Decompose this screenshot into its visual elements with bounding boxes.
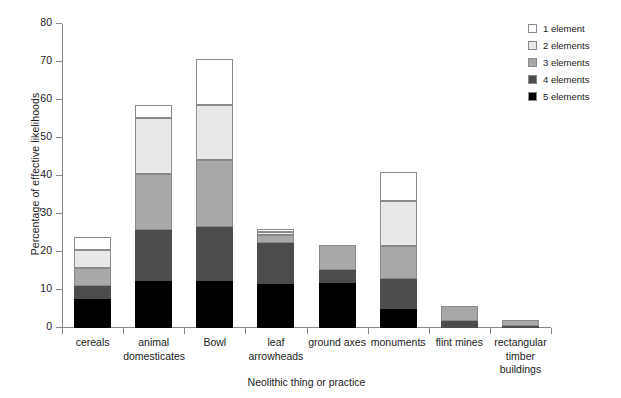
bar-segment (380, 309, 417, 328)
bar-segment (380, 201, 417, 247)
x-category-line: domesticates (123, 350, 184, 364)
y-tick-label: 0 (46, 320, 52, 332)
x-category-label: ground axes (307, 336, 368, 350)
y-axis-line (62, 24, 63, 328)
legend-swatch-icon (528, 24, 537, 33)
bar-rectangular-timber-buildings (502, 320, 539, 328)
x-category-line: Bowl (184, 336, 245, 350)
y-tick-label: 70 (40, 54, 52, 66)
bar-segment (196, 105, 233, 160)
x-category-line: arrowheads (245, 350, 306, 364)
bar-segment (441, 306, 478, 321)
bar-segment (380, 246, 417, 279)
bar-segment (74, 299, 111, 328)
bar-leaf-arrowheads (257, 229, 294, 328)
legend-swatch-icon (528, 58, 537, 67)
legend-label: 1 element (543, 23, 585, 34)
bar-segment (74, 286, 111, 299)
x-category-label: flint mines (429, 336, 490, 350)
legend: 1 element2 elements3 elements4 elements5… (528, 20, 589, 105)
x-category-line: flint mines (429, 336, 490, 350)
legend-swatch-icon (528, 41, 537, 50)
y-tick-label: 80 (40, 16, 52, 28)
bar-segment (380, 172, 417, 201)
bar-segment (319, 245, 356, 270)
bar-segment (257, 229, 294, 232)
legend-item: 1 element (528, 20, 589, 37)
x-tick (62, 328, 63, 334)
x-category-line: buildings (490, 363, 551, 377)
x-tick (307, 328, 308, 334)
bar-segment (135, 118, 172, 174)
x-tick (429, 328, 430, 334)
x-category-line: cereals (62, 336, 123, 350)
x-category-line: ground axes (307, 336, 368, 350)
x-tick (184, 328, 185, 334)
bar-segment (135, 230, 172, 281)
bar-segment (196, 59, 233, 105)
x-tick (123, 328, 124, 334)
legend-swatch-icon (528, 92, 537, 101)
bar-segment (135, 174, 172, 230)
bar-segment (196, 160, 233, 227)
x-category-label: leafarrowheads (245, 336, 306, 363)
x-category-label: cereals (62, 336, 123, 350)
y-tick-label: 30 (40, 206, 52, 218)
bar-segment (380, 279, 417, 309)
bar-segment (441, 321, 478, 328)
y-tick-label: 40 (40, 168, 52, 180)
bar-animal-domesticates (135, 105, 172, 328)
legend-label: 5 elements (543, 91, 589, 102)
plot-area: 01020304050607080 (62, 24, 551, 328)
legend-item: 2 elements (528, 37, 589, 54)
bar-monuments (380, 172, 417, 328)
x-tick (490, 328, 491, 334)
bar-Bowl (196, 59, 233, 328)
bar-segment (74, 268, 111, 287)
y-tick-label: 10 (40, 282, 52, 294)
legend-item: 5 elements (528, 88, 589, 105)
x-category-line: leaf (245, 336, 306, 350)
bar-segment (135, 281, 172, 328)
x-category-label: monuments (368, 336, 429, 350)
bar-ground-axes (319, 245, 356, 328)
bar-segment (257, 243, 294, 284)
bar-segment (196, 281, 233, 328)
y-tick-20: 20 (56, 251, 62, 252)
y-tick-30: 30 (56, 213, 62, 214)
legend-swatch-icon (528, 75, 537, 84)
bar-cereals (74, 237, 111, 328)
y-tick-50: 50 (56, 137, 62, 138)
y-axis-title: Percentage of effective likelihoods (29, 44, 41, 304)
y-tick-label: 60 (40, 92, 52, 104)
y-tick-label: 20 (40, 244, 52, 256)
legend-item: 4 elements (528, 71, 589, 88)
bar-segment (74, 250, 111, 268)
legend-label: 4 elements (543, 74, 589, 85)
bar-segment (319, 283, 356, 328)
legend-label: 3 elements (543, 57, 589, 68)
y-tick-70: 70 (56, 61, 62, 62)
x-category-line: monuments (368, 336, 429, 350)
x-tick (551, 328, 552, 334)
bar-segment (502, 320, 539, 326)
x-category-line: timber (490, 350, 551, 364)
x-category-label: rectangulartimberbuildings (490, 336, 551, 377)
bar-segment (502, 326, 539, 328)
legend-label: 2 elements (543, 40, 589, 51)
x-tick (368, 328, 369, 334)
y-tick-40: 40 (56, 175, 62, 176)
bar-segment (74, 237, 111, 250)
legend-item: 3 elements (528, 54, 589, 71)
bar-segment (135, 105, 172, 118)
bar-segment (257, 284, 294, 328)
x-axis-title: Neolithic thing or practice (62, 376, 551, 388)
y-tick-10: 10 (56, 289, 62, 290)
x-category-label: animaldomesticates (123, 336, 184, 363)
y-tick-label: 50 (40, 130, 52, 142)
x-category-label: Bowl (184, 336, 245, 350)
bar-segment (196, 227, 233, 281)
y-tick-60: 60 (56, 99, 62, 100)
x-category-line: rectangular (490, 336, 551, 350)
bar-segment (319, 270, 356, 283)
